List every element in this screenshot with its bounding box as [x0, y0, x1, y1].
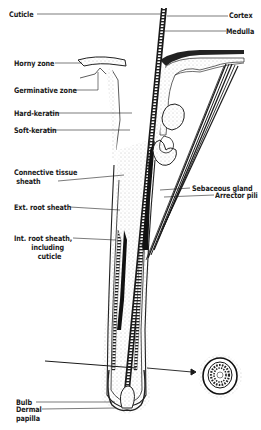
- label-connective-tissue-sheath: Connective tissue sheath: [14, 168, 77, 186]
- label-germinative-zone: Germinative zone: [14, 86, 77, 95]
- label-horny-zone: Horny zone: [14, 59, 54, 68]
- label-soft-keratin: Soft-keratin: [14, 126, 57, 135]
- label-int-root-sheath: Int. root sheath, including cuticle: [14, 234, 72, 261]
- label-cuticle: Cuticle: [9, 10, 33, 19]
- label-cortex: Cortex: [229, 11, 252, 20]
- label-ext-root-sheath: Ext. root sheath: [14, 203, 71, 212]
- label-hard-keratin: Hard-keratin: [14, 109, 59, 118]
- epidermis-left: [78, 57, 126, 160]
- cross-section: [198, 354, 242, 398]
- label-dermal-papilla: Dermal papilla: [16, 405, 42, 423]
- hair-follicle-diagram: Cuticle Horny zone Germinative zone Hard…: [0, 0, 261, 430]
- label-medulla: Medulla: [226, 27, 254, 36]
- label-arrector-pili: Arrector pili: [215, 191, 258, 200]
